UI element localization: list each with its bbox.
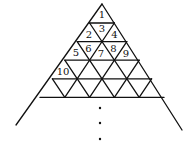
label-9: 9 — [123, 48, 129, 59]
left-outer-edge — [16, 4, 102, 125]
label-7: 7 — [98, 48, 104, 59]
label-1: 1 — [99, 9, 105, 20]
label-4: 4 — [111, 29, 117, 40]
label-3: 3 — [99, 23, 105, 34]
vertical-ellipsis — [99, 107, 101, 140]
label-5: 5 — [73, 47, 79, 58]
label-8: 8 — [110, 43, 116, 54]
label-10: 10 — [57, 66, 70, 77]
label-2: 2 — [86, 29, 92, 40]
label-6: 6 — [85, 43, 91, 54]
row-lines — [40, 23, 164, 97]
triangle-pyramid-diagram: 1 2 3 4 5 6 7 8 9 10 — [0, 0, 190, 146]
